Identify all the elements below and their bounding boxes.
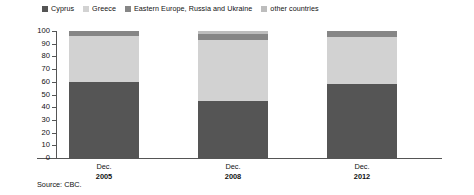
y-axis-tick-label: 0	[46, 154, 50, 162]
bar-segment[interactable]	[69, 36, 139, 82]
bar-segment[interactable]	[327, 37, 397, 84]
x-axis-label-year: 2012	[332, 172, 392, 182]
legend-swatch-icon	[125, 6, 131, 12]
y-axis-tick-label: 90	[42, 40, 50, 48]
legend-swatch-icon	[42, 6, 48, 12]
x-axis-label-year: 2005	[74, 172, 134, 182]
stacked-bar[interactable]	[327, 31, 397, 158]
bar-group	[327, 31, 397, 158]
chart-legend: CyprusGreeceEastern Europe, Russia and U…	[42, 3, 319, 14]
y-axis-tick-label: 30	[42, 116, 50, 124]
bar-group	[198, 31, 268, 158]
legend-entry[interactable]: Greece	[83, 5, 116, 13]
y-axis-tick-mark	[52, 44, 56, 45]
y-axis-tick-label: 20	[42, 129, 50, 137]
y-axis-tick-mark	[52, 95, 56, 96]
bar-segment[interactable]	[69, 82, 139, 158]
stacked-bar[interactable]	[69, 31, 139, 158]
x-axis-line	[37, 158, 442, 159]
x-axis-category-label: Dec.2005	[74, 162, 134, 181]
legend-swatch-icon	[83, 6, 89, 12]
bar-segment[interactable]	[198, 40, 268, 101]
y-axis-tick-label: 10	[42, 141, 50, 149]
bar-group	[69, 31, 139, 158]
bar-segment[interactable]	[327, 84, 397, 158]
y-axis-tick-label: 70	[42, 65, 50, 73]
legend-entry[interactable]: other countries	[261, 5, 318, 13]
legend-label: Cyprus	[51, 5, 74, 13]
y-axis-tick-label: 40	[42, 103, 50, 111]
stacked-bar-chart-figure: CyprusGreeceEastern Europe, Russia and U…	[0, 0, 474, 195]
y-axis-tick-mark	[52, 145, 56, 146]
legend-entry[interactable]: Cyprus	[42, 5, 74, 13]
x-axis-label-month: Dec.	[74, 162, 134, 172]
source-note: Source: CBC.	[37, 180, 82, 189]
y-axis-tick-mark	[52, 82, 56, 83]
y-axis-tick-mark	[52, 120, 56, 121]
y-axis-tick-label: 80	[42, 52, 50, 60]
plot-area: 0102030405060708090100	[56, 31, 442, 158]
x-axis-category-label: Dec.2008	[203, 162, 263, 181]
y-axis-tick-mark	[52, 158, 56, 159]
y-axis-tick-mark	[52, 69, 56, 70]
legend-label: other countries	[270, 5, 318, 13]
y-axis-tick-mark	[52, 133, 56, 134]
legend-swatch-icon	[261, 6, 267, 12]
legend-label: Greece	[92, 5, 116, 13]
y-axis-tick-label: 60	[42, 78, 50, 86]
y-axis-tick-label: 100	[37, 27, 50, 35]
y-axis-tick-mark	[52, 31, 56, 32]
x-axis-label-year: 2008	[203, 172, 263, 182]
legend-label: Eastern Europe, Russia and Ukraine	[134, 5, 252, 13]
stacked-bar[interactable]	[198, 31, 268, 158]
legend-entry[interactable]: Eastern Europe, Russia and Ukraine	[125, 5, 252, 13]
y-axis-tick-mark	[52, 107, 56, 108]
y-axis-tick-label: 50	[42, 91, 50, 99]
y-axis-tick-mark	[52, 56, 56, 57]
x-axis-category-label: Dec.2012	[332, 162, 392, 181]
x-axis-label-month: Dec.	[332, 162, 392, 172]
x-axis-label-month: Dec.	[203, 162, 263, 172]
bar-segment[interactable]	[198, 101, 268, 158]
